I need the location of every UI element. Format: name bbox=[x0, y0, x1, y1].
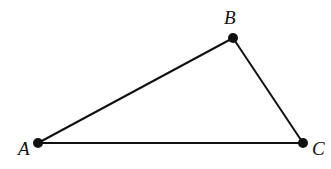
vertex-a-label: A bbox=[16, 138, 30, 159]
vertex-b-label: B bbox=[224, 7, 236, 28]
triangle-diagram: A B C bbox=[0, 0, 331, 169]
edge-ab bbox=[38, 38, 233, 143]
labels: A B C bbox=[16, 7, 325, 159]
vertex-b-point bbox=[228, 33, 238, 43]
vertex-a-point bbox=[33, 138, 43, 148]
vertex-c-point bbox=[298, 138, 308, 148]
edges bbox=[38, 38, 303, 143]
vertices bbox=[33, 33, 308, 148]
edge-bc bbox=[233, 38, 303, 143]
vertex-c-label: C bbox=[312, 138, 325, 159]
